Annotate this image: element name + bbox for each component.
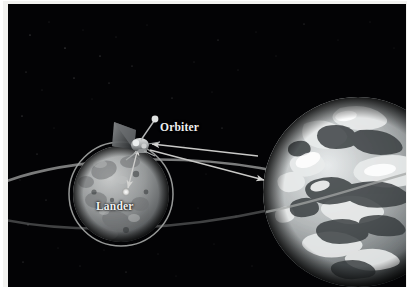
lander-marker	[122, 188, 130, 196]
space-scene-plate: Orbiter Lander	[8, 4, 406, 287]
space-scene	[8, 4, 406, 287]
lander-label: Lander	[96, 200, 134, 212]
moon-body	[73, 146, 169, 242]
diagram-figure: Orbiter Lander	[0, 0, 410, 302]
orbiter-label: Orbiter	[160, 121, 199, 133]
earth-body	[263, 97, 406, 287]
figure-border: Orbiter Lander	[3, 1, 407, 287]
